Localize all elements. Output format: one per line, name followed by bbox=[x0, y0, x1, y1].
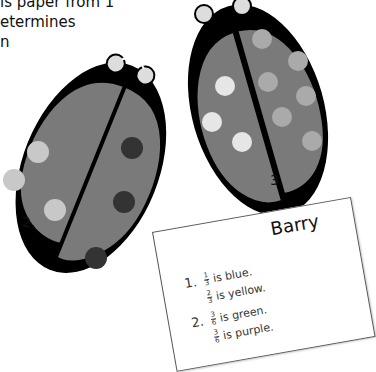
fraction: 36 bbox=[213, 329, 221, 345]
intro-line-2: etermines bbox=[0, 12, 114, 32]
ladybug-2-label: 2. bbox=[22, 214, 35, 230]
dot bbox=[27, 141, 49, 163]
ladybug-3-label: 3. bbox=[270, 172, 283, 188]
fraction: 23 bbox=[206, 290, 214, 306]
intro-line-1: is paper from 1 bbox=[0, 0, 114, 12]
ladybug-3: 3. bbox=[180, 0, 335, 230]
student-name: Barry bbox=[269, 210, 320, 239]
